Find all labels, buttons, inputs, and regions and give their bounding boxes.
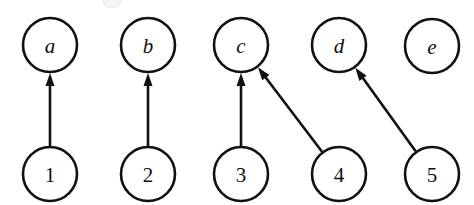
node-c[interactable]: c [214,18,268,72]
node-5[interactable]: 5 [405,147,459,201]
node-label-e: e [427,35,436,59]
node-4[interactable]: 4 [312,147,366,201]
edge-5-to-d [355,68,415,152]
node-label-a: a [45,34,56,58]
node-3[interactable]: 3 [214,147,268,201]
edge-1-to-a [46,73,55,146]
node-label-5: 5 [427,163,438,187]
graph-canvas: abcde12345 [0,0,474,205]
node-label-4: 4 [334,163,345,187]
node-d[interactable]: d [312,18,366,72]
node-b[interactable]: b [121,18,175,72]
edge-4-to-c [258,67,322,151]
arrowhead-icon [46,73,55,86]
node-label-1: 1 [45,163,56,187]
edge-2-to-b [144,73,153,146]
node-2[interactable]: 2 [121,147,175,201]
node-label-c: c [236,34,246,58]
graph-diagram: abcde12345 [0,0,474,205]
node-label-d: d [334,34,345,58]
node-label-2: 2 [143,163,154,187]
node-label-3: 3 [236,163,247,187]
node-e[interactable]: e [405,19,459,73]
edges-layer [46,67,416,151]
edge-shaft [361,76,415,151]
node-label-b: b [143,34,154,58]
edge-shaft [264,75,322,151]
arrowhead-icon [144,73,153,86]
edge-3-to-c [237,73,246,146]
node-1[interactable]: 1 [23,147,77,201]
arrowhead-icon [237,73,246,86]
node-a[interactable]: a [23,18,77,72]
